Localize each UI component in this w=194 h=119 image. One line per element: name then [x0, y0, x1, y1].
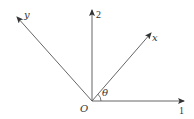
theta-arc	[98, 94, 101, 101]
origin-label: O	[80, 103, 88, 114]
axis-y-label: y	[23, 9, 30, 20]
axis-1-label: 1	[179, 105, 184, 116]
axis-y-line	[17, 17, 92, 101]
axis-x-line	[92, 33, 151, 101]
diagram-canvas: O θ 1 2 x y	[0, 0, 194, 119]
axis-2-label: 2	[96, 9, 101, 20]
theta-label: θ	[102, 87, 108, 98]
axis-x-label: x	[152, 32, 158, 43]
